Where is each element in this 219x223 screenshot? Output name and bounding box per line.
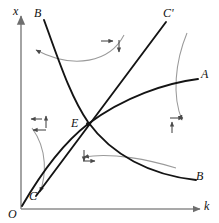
phase-diagram-figure: B B C' C A E x k O [0, 0, 219, 223]
label-origin-o: O [8, 208, 17, 220]
label-b-top: B [34, 7, 41, 19]
arc-upper-left [36, 35, 124, 61]
equilibrium-point-marker [86, 122, 90, 126]
label-equilibrium-e: E [71, 117, 78, 129]
arc-lower-left [32, 128, 44, 192]
label-y-axis-x: x [13, 5, 18, 17]
label-c-bottom: C [29, 190, 37, 202]
dynamic-arrow-arcs [32, 33, 187, 192]
locus-curves [22, 20, 198, 206]
label-a-right: A [201, 68, 208, 80]
label-x-axis-k: k [204, 200, 209, 212]
arc-right-side [176, 33, 187, 120]
cc-saddle-path-line [36, 22, 166, 196]
arc-lower-mid [84, 155, 176, 168]
label-b-bottom: B [196, 170, 203, 182]
label-c-prime: C' [163, 7, 174, 19]
